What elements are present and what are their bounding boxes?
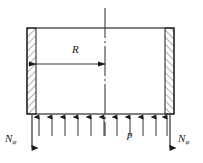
radius-label: R <box>72 44 79 55</box>
pressure-arrow-group <box>39 117 167 136</box>
radius-symbol: R <box>72 43 79 55</box>
figure-canvas: R p Nφ Nφ <box>0 0 203 163</box>
pressure-symbol: p <box>127 128 133 140</box>
left-wall-hatch <box>27 28 36 114</box>
force-label-right: Nφ <box>178 133 189 146</box>
edge-force-group <box>32 115 170 148</box>
shell-pressure-diagram <box>0 0 203 163</box>
force-subscript-right: φ <box>185 138 189 146</box>
pressure-label: p <box>127 129 133 140</box>
vessel-outline <box>27 28 174 114</box>
right-wall-hatch <box>165 28 174 114</box>
force-subscript-left: φ <box>12 138 16 146</box>
force-label-left: Nφ <box>5 133 16 146</box>
vessel-body <box>27 28 174 114</box>
